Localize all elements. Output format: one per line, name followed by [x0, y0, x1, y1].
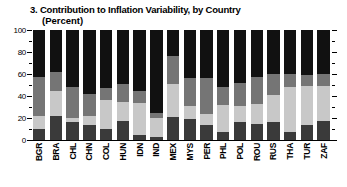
- chart-panel: 3. Contribution to Inflation Variability…: [0, 0, 347, 187]
- x-axis-label: IDN: [134, 143, 146, 157]
- bar-segment: [167, 117, 179, 140]
- bar-segment: [284, 30, 296, 74]
- x-axis-label: BRA: [50, 143, 62, 161]
- y-tick-label: 0: [22, 136, 26, 145]
- x-axis-label-inner: COL: [100, 143, 112, 183]
- bar-rou: [251, 30, 263, 140]
- x-axis-label-inner: PHL: [217, 143, 229, 183]
- x-axis-label-cell: THA: [284, 143, 296, 185]
- bar-group: [33, 30, 330, 140]
- y-tick-major: [27, 74, 32, 75]
- x-axis-label-cell: COL: [100, 143, 112, 185]
- bar-segment: [100, 129, 112, 140]
- bar-segment: [217, 87, 229, 105]
- bar-segment: [217, 105, 229, 133]
- bar-segment: [33, 30, 45, 77]
- bar-segment: [267, 122, 279, 140]
- y-axis: 020406080100: [0, 30, 33, 140]
- bar-segment: [267, 95, 279, 123]
- bar-chl: [66, 30, 78, 140]
- bar-segment: [167, 56, 179, 84]
- bar-segment: [150, 118, 162, 137]
- y-tick-minor: [29, 63, 32, 64]
- bar-phl: [217, 30, 229, 140]
- bar-segment: [33, 77, 45, 116]
- x-axis-label: COL: [100, 143, 112, 160]
- x-axis-label-cell: CHL: [66, 143, 78, 185]
- bar-segment: [284, 74, 296, 87]
- bar-segment: [267, 74, 279, 95]
- x-axis-label: TUR: [301, 143, 313, 160]
- bar-segment: [117, 84, 129, 102]
- x-axis-label: BGR: [33, 143, 45, 161]
- bar-segment: [234, 30, 246, 83]
- bar-segment: [301, 30, 313, 75]
- x-axis-label-inner: THA: [284, 143, 296, 183]
- bar-segment: [150, 30, 162, 113]
- bar-segment: [184, 30, 196, 78]
- bar-segment: [100, 30, 112, 88]
- bar-ind: [150, 30, 162, 140]
- right-tick-major: [332, 96, 337, 97]
- chart-title-block: 3. Contribution to Inflation Variability…: [30, 4, 330, 26]
- bar-segment: [133, 103, 145, 135]
- bar-bra: [50, 30, 62, 140]
- y-tick-label: 40: [18, 92, 26, 101]
- bar-segment: [234, 122, 246, 140]
- bar-segment: [267, 30, 279, 74]
- bar-segment: [317, 121, 329, 140]
- bar-segment: [284, 87, 296, 132]
- x-axis-label-cell: ROU: [251, 143, 263, 185]
- y-tick-minor: [29, 85, 32, 86]
- x-axis-label-cell: IND: [150, 143, 162, 185]
- right-tick-major: [332, 52, 337, 53]
- bar-segment: [133, 30, 145, 91]
- bar-hun: [117, 30, 129, 140]
- bar-segment: [133, 91, 145, 103]
- x-axis-label: CHL: [67, 143, 79, 160]
- bar-segment: [184, 78, 196, 106]
- x-axis-label-cell: PER: [200, 143, 212, 185]
- x-axis-label: MYS: [184, 143, 196, 161]
- bar-zaf: [317, 30, 329, 140]
- bar-segment: [301, 125, 313, 140]
- x-axis-label-inner: BRA: [50, 143, 62, 183]
- bar-tha: [284, 30, 296, 140]
- x-axis-label: PHL: [217, 143, 229, 159]
- bar-bgr: [33, 30, 45, 140]
- chart-title: 3. Contribution to Inflation Variability…: [30, 4, 330, 15]
- x-axis-label: CHN: [83, 143, 95, 161]
- bar-segment: [217, 30, 229, 87]
- bar-idn: [133, 30, 145, 140]
- x-axis-label-inner: BGR: [33, 143, 45, 183]
- bar-segment: [83, 116, 95, 125]
- x-axis-label-cell: BRA: [50, 143, 62, 185]
- right-tick-major: [332, 118, 337, 119]
- x-axis-label-cell: PHL: [217, 143, 229, 185]
- bar-segment: [251, 77, 263, 103]
- right-tick-minor: [332, 41, 335, 42]
- right-tick-major: [332, 74, 337, 75]
- x-axis-label: MEX: [167, 143, 179, 161]
- x-axis-label-inner: CHN: [83, 143, 95, 183]
- bar-segment: [251, 104, 263, 124]
- bar-segment: [66, 30, 78, 87]
- x-axis-label: POL: [234, 143, 246, 160]
- bar-segment: [117, 30, 129, 84]
- x-axis-label-inner: POL: [234, 143, 246, 183]
- y-tick-major: [27, 30, 32, 31]
- bar-segment: [33, 116, 45, 129]
- y-tick-label: 20: [18, 114, 26, 123]
- bar-segment: [83, 125, 95, 140]
- bar-segment: [184, 119, 196, 140]
- x-axis-labels: BGRBRACHLCHNCOLHUNIDNINDMEXMYSPERPHLPOLR…: [33, 143, 330, 185]
- bar-segment: [66, 122, 78, 140]
- bar-segment: [50, 116, 62, 140]
- bar-mex: [167, 30, 179, 140]
- x-axis-label-inner: ZAF: [317, 143, 329, 183]
- x-axis-label-inner: PER: [200, 143, 212, 183]
- right-tick-minor: [332, 129, 335, 130]
- bar-segment: [50, 72, 62, 91]
- bar-segment: [117, 121, 129, 140]
- bar-segment: [217, 132, 229, 140]
